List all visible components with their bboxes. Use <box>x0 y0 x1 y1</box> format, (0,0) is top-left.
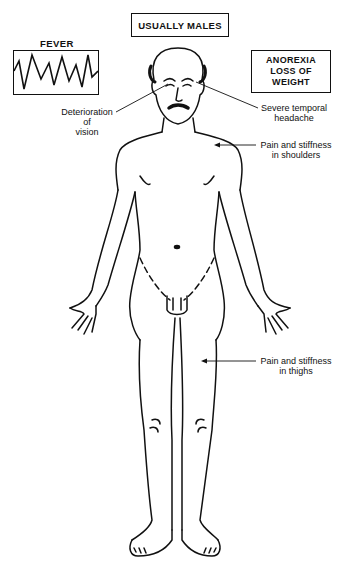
headache-leader-line <box>196 82 258 108</box>
head-outline <box>152 48 204 124</box>
male-figure-illustration <box>0 0 344 572</box>
